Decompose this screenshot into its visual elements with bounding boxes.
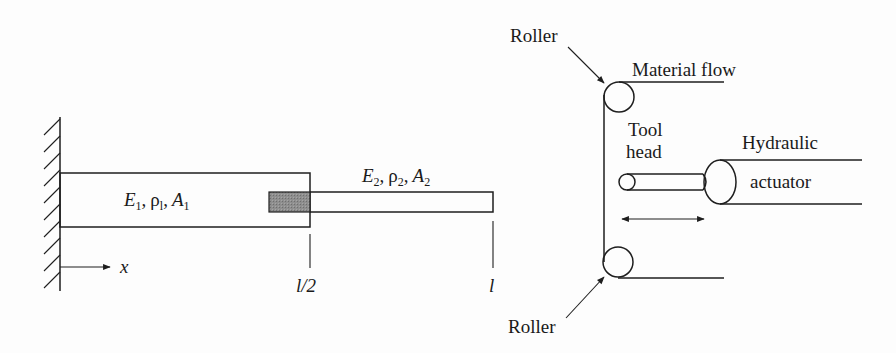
machine-diagram: Roller Roller Material flow Tool head Hy… (508, 25, 862, 337)
bottom-roller-leader (566, 277, 604, 318)
tool-head-label-line1: Tool (628, 119, 663, 140)
top-roller (604, 82, 634, 112)
tool-head-label-line2: head (626, 141, 662, 162)
x-axis-label: x (119, 256, 129, 277)
segment-1-modulus: E (123, 189, 136, 210)
top-roller-leader (568, 47, 604, 83)
diagram-canvas: x l/2 l E1,ρl,A1 E2,ρ2,A2 Roller (0, 0, 896, 353)
full-length-label: l (489, 275, 494, 296)
bottom-roller (603, 247, 633, 277)
segment-2-modulus: E (361, 165, 374, 186)
overlap-region (269, 192, 310, 212)
bottom-roller-label: Roller (508, 316, 556, 337)
tool-head-rod (619, 174, 706, 190)
segment-2-density: ρ (388, 165, 397, 186)
segment-1-properties: E1,ρl,A1 (123, 189, 190, 213)
material-flow-label: Material flow (632, 59, 736, 80)
beam-segment-2 (310, 192, 493, 212)
top-roller-label: Roller (510, 25, 558, 46)
actuator-label-line1: Hydraulic (742, 132, 818, 153)
segment-1-density: ρ (150, 189, 159, 210)
half-length-label: l/2 (296, 275, 317, 296)
segment-2-properties: E2,ρ2,A2 (361, 165, 430, 189)
beam-diagram: x l/2 l E1,ρl,A1 E2,ρ2,A2 (44, 117, 494, 296)
segment-2-area: A (411, 165, 425, 186)
segment-1-area: A (170, 189, 184, 210)
figure: x l/2 l E1,ρl,A1 E2,ρ2,A2 Roller (0, 0, 896, 353)
actuator-label-line2: actuator (750, 171, 812, 192)
fixed-wall-support (44, 117, 60, 291)
